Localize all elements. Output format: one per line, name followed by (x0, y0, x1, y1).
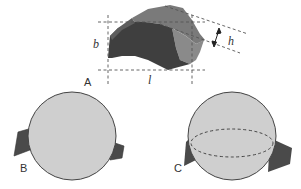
height-arrow (212, 28, 221, 47)
panel-c: C (174, 92, 292, 180)
label-b: b (93, 37, 99, 51)
label-l: l (148, 73, 152, 87)
panel-b: B (14, 92, 124, 180)
sphere-c (188, 92, 276, 180)
panel-a: b l h A (84, 5, 248, 88)
sphere-b (28, 92, 116, 180)
particle-a (108, 5, 205, 70)
panel-c-label: C (174, 162, 182, 174)
panel-b-label: B (20, 162, 27, 174)
panel-a-label: A (84, 76, 92, 88)
diagram-canvas: b l h A B C (0, 0, 301, 189)
label-h: h (228, 34, 234, 48)
